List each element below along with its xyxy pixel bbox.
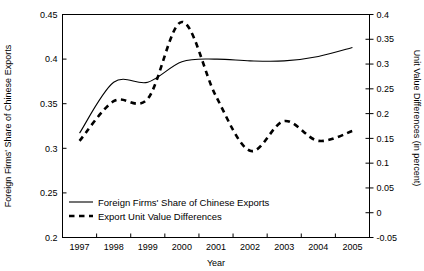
right-tick-label: 0.15 (377, 134, 395, 144)
chart-container: 0.20.250.30.350.40.45 -0.0500.050.10.150… (0, 0, 424, 271)
right-tick-label: 0 (377, 208, 382, 218)
x-tick-label: 2005 (342, 242, 362, 252)
series-export-unit-value-differences (80, 22, 353, 151)
left-axis-title: Foreign Firms' Share of Chinese Exports (3, 44, 13, 207)
left-tick-label: 0.35 (40, 99, 58, 109)
x-tick-label: 2003 (274, 242, 294, 252)
left-tick-label: 0.25 (40, 188, 58, 198)
legend-label-solid: Foreign Firms' Share of Chinese Exports (98, 197, 270, 208)
x-tick-label: 2004 (308, 242, 328, 252)
left-axis-ticks (63, 15, 67, 238)
x-tick-label: 2000 (172, 242, 192, 252)
left-tick-label: 0.3 (45, 144, 58, 154)
left-tick-label: 0.2 (45, 233, 58, 243)
x-tick-label: 1999 (138, 242, 158, 252)
x-axis-ticks (97, 234, 336, 238)
right-tick-label: 0.3 (377, 59, 390, 69)
x-tick-label: 2001 (206, 242, 226, 252)
x-axis-tick-labels: 199719981999200020012002200320042005 (70, 242, 363, 252)
dual-axis-line-chart: 0.20.250.30.350.40.45 -0.0500.050.10.150… (0, 0, 424, 271)
x-axis-title: Year (207, 258, 225, 268)
legend-label-dashed: Export Unit Value Differences (98, 211, 222, 222)
right-tick-label: 0.05 (377, 183, 395, 193)
left-tick-label: 0.45 (40, 10, 58, 20)
right-tick-label: 0.2 (377, 109, 390, 119)
right-axis-tick-labels: -0.0500.050.10.150.20.250.30.350.4 (377, 10, 398, 243)
right-tick-label: 0.25 (377, 84, 395, 94)
right-tick-label: -0.05 (377, 233, 398, 243)
series-foreign-firms-share (80, 48, 353, 134)
left-axis-tick-labels: 0.20.250.30.350.40.45 (40, 10, 58, 243)
left-tick-label: 0.4 (45, 54, 58, 64)
x-tick-label: 2002 (240, 242, 260, 252)
right-tick-label: 0.1 (377, 158, 390, 168)
right-tick-label: 0.4 (377, 10, 390, 20)
right-tick-label: 0.35 (377, 34, 395, 44)
x-tick-label: 1998 (104, 242, 124, 252)
x-tick-label: 1997 (70, 242, 90, 252)
chart-legend: Foreign Firms' Share of Chinese Exports … (69, 197, 270, 222)
right-axis-title: Unit Value Differences (in percent) (412, 50, 422, 187)
